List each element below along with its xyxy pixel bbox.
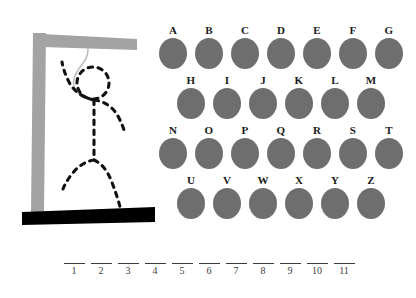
letter-disc[interactable]	[159, 138, 187, 169]
answer-slot-line	[64, 263, 85, 264]
answer-slot-3: 3	[116, 263, 140, 277]
letter-label: F	[335, 24, 371, 37]
answer-slot-6: 6	[197, 263, 221, 277]
hangman-game-stage: ABCDEFGHIJKLMNOPQRSTUVWXYZ 1234567891011	[0, 0, 416, 298]
letter-label: R	[299, 124, 335, 137]
answer-slot-number: 7	[224, 265, 248, 277]
letter-button-i[interactable]: I	[209, 74, 245, 124]
letter-label: N	[155, 124, 191, 137]
letter-label: E	[299, 24, 335, 37]
answer-slot-10: 10	[305, 263, 329, 277]
answer-slot-line	[118, 263, 139, 264]
answer-slot-line	[307, 263, 328, 264]
letter-label: A	[155, 24, 191, 37]
letter-disc[interactable]	[375, 138, 403, 169]
answer-slot-9: 9	[278, 263, 302, 277]
letter-disc[interactable]	[231, 138, 259, 169]
letter-button-y[interactable]: Y	[317, 174, 353, 224]
letter-disc[interactable]	[213, 88, 241, 119]
letter-label: W	[245, 174, 281, 187]
letter-button-e[interactable]: E	[299, 24, 335, 74]
letter-disc[interactable]	[159, 38, 187, 69]
answer-slot-line	[145, 263, 166, 264]
letter-disc[interactable]	[195, 138, 223, 169]
letter-label: K	[281, 74, 317, 87]
letter-disc[interactable]	[375, 38, 403, 69]
letter-disc[interactable]	[285, 88, 313, 119]
letter-disc[interactable]	[249, 188, 277, 219]
letter-disc[interactable]	[231, 38, 259, 69]
letter-button-f[interactable]: F	[335, 24, 371, 74]
answer-slot-line	[280, 263, 301, 264]
letter-button-c[interactable]: C	[227, 24, 263, 74]
letter-button-u[interactable]: U	[173, 174, 209, 224]
letter-disc[interactable]	[267, 38, 295, 69]
letter-label: T	[371, 124, 407, 137]
answer-slot-line	[253, 263, 274, 264]
hangman-figure	[0, 0, 165, 250]
letter-disc[interactable]	[303, 38, 331, 69]
letter-button-v[interactable]: V	[209, 174, 245, 224]
answer-slot-number: 8	[251, 265, 275, 277]
letter-button-p[interactable]: P	[227, 124, 263, 174]
answer-slot-5: 5	[170, 263, 194, 277]
letter-button-h[interactable]: H	[173, 74, 209, 124]
letter-label: P	[227, 124, 263, 137]
answer-slot-line	[226, 263, 247, 264]
letter-disc[interactable]	[357, 188, 385, 219]
answer-slot-number: 4	[143, 265, 167, 277]
letter-button-w[interactable]: W	[245, 174, 281, 224]
letter-button-q[interactable]: Q	[263, 124, 299, 174]
letter-button-x[interactable]: X	[281, 174, 317, 224]
letter-label: H	[173, 74, 209, 87]
letter-disc[interactable]	[213, 188, 241, 219]
letter-label: Z	[353, 174, 389, 187]
letter-disc[interactable]	[321, 88, 349, 119]
letter-button-o[interactable]: O	[191, 124, 227, 174]
letter-button-s[interactable]: S	[335, 124, 371, 174]
letter-label: X	[281, 174, 317, 187]
letter-disc[interactable]	[321, 188, 349, 219]
letter-button-g[interactable]: G	[371, 24, 407, 74]
letter-disc[interactable]	[339, 138, 367, 169]
letter-disc[interactable]	[249, 88, 277, 119]
letter-label: D	[263, 24, 299, 37]
letter-disc[interactable]	[195, 38, 223, 69]
letter-disc[interactable]	[303, 138, 331, 169]
letter-label: L	[317, 74, 353, 87]
letter-button-z[interactable]: Z	[353, 174, 389, 224]
answer-slot-11: 11	[332, 263, 356, 277]
answer-slot-8: 8	[251, 263, 275, 277]
letter-button-d[interactable]: D	[263, 24, 299, 74]
answer-slot-number: 3	[116, 265, 140, 277]
letter-keyboard[interactable]: ABCDEFGHIJKLMNOPQRSTUVWXYZ	[155, 24, 410, 236]
figure-left-leg	[63, 160, 94, 189]
letter-disc[interactable]	[177, 188, 205, 219]
letter-button-b[interactable]: B	[191, 24, 227, 74]
letter-button-l[interactable]: L	[317, 74, 353, 124]
letter-button-t[interactable]: T	[371, 124, 407, 174]
answer-slot-number: 9	[278, 265, 302, 277]
answer-slot-4: 4	[143, 263, 167, 277]
letter-label: C	[227, 24, 263, 37]
letter-label: G	[371, 24, 407, 37]
letter-button-n[interactable]: N	[155, 124, 191, 174]
letter-label: I	[209, 74, 245, 87]
letter-button-m[interactable]: M	[353, 74, 389, 124]
letter-disc[interactable]	[285, 188, 313, 219]
answer-slot-7: 7	[224, 263, 248, 277]
letter-label: B	[191, 24, 227, 37]
letter-disc[interactable]	[177, 88, 205, 119]
letter-button-a[interactable]: A	[155, 24, 191, 74]
gallows-panel	[0, 0, 165, 250]
letter-button-r[interactable]: R	[299, 124, 335, 174]
letter-row: ABCDEFG	[155, 24, 410, 74]
letter-button-j[interactable]: J	[245, 74, 281, 124]
figure-right-arm	[94, 100, 125, 134]
answer-slot-number: 5	[170, 265, 194, 277]
letter-disc[interactable]	[267, 138, 295, 169]
letter-label: V	[209, 174, 245, 187]
letter-disc[interactable]	[339, 38, 367, 69]
letter-disc[interactable]	[357, 88, 385, 119]
letter-button-k[interactable]: K	[281, 74, 317, 124]
